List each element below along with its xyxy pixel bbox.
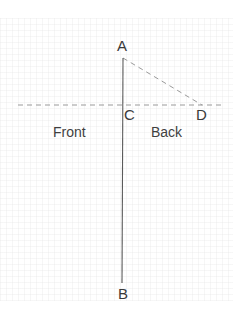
point-label-a: A <box>117 38 127 53</box>
point-label-c: C <box>124 107 135 122</box>
point-label-b: B <box>118 286 128 301</box>
diagonal-dashed-line-AD <box>123 58 202 105</box>
region-label-front: Front <box>53 125 86 139</box>
point-label-d: D <box>196 107 207 122</box>
vertical-line-AB <box>122 58 123 283</box>
region-label-back: Back <box>151 125 182 139</box>
diagram-canvas: A B C D Front Back <box>0 0 233 319</box>
